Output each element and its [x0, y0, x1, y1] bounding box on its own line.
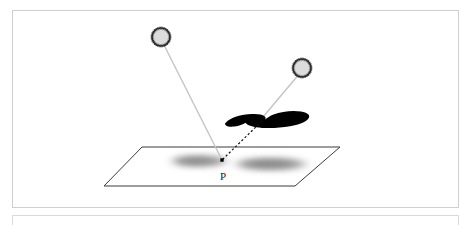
light-bulb-left: [153, 29, 168, 44]
scene-illustration: P: [0, 0, 471, 225]
figure-background: [0, 0, 471, 225]
penumbra-right-core: [246, 161, 290, 167]
point-p-label: P: [220, 170, 226, 182]
figure-root: P: [0, 0, 471, 225]
surface-point-marker: [220, 158, 223, 161]
penumbra-left-core: [180, 158, 212, 164]
light-bulb-right: [294, 60, 309, 75]
